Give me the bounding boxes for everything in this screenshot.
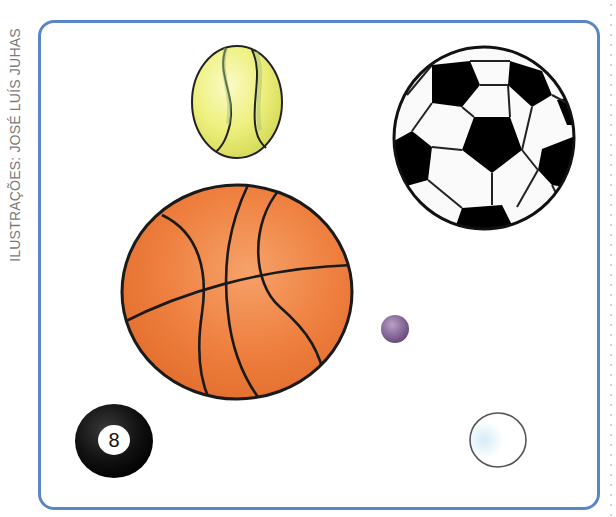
illustration-credit: ILUSTRAÇÕES: JOSÉ LUÍS JUHAS [4, 20, 26, 270]
page-edge-dots [606, 0, 616, 517]
ping-pong-ball-icon [468, 411, 528, 469]
illustration-credit-text: ILUSTRAÇÕES: JOSÉ LUÍS JUHAS [7, 28, 23, 262]
marble-icon [380, 314, 410, 344]
eight-ball-icon: 8 [74, 403, 154, 479]
eight-ball-number: 8 [108, 429, 119, 451]
tennis-ball-icon [190, 44, 284, 160]
basketball-icon [120, 183, 354, 401]
soccer-ball-icon [392, 45, 576, 231]
